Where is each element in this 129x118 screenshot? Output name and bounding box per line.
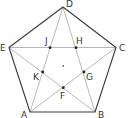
label-e: E: [0, 43, 6, 53]
intersection-points: [41, 46, 85, 89]
diagonal-ad: [30, 7, 63, 112]
label-d: D: [66, 0, 73, 9]
pentagon-diagram: A B C D E F G H J K: [0, 0, 129, 118]
label-a: A: [21, 110, 28, 118]
diagonal-ac: [30, 48, 116, 113]
point-f: [62, 86, 65, 89]
center-point: [63, 65, 65, 67]
label-h: H: [76, 36, 83, 46]
point-h: [75, 46, 78, 49]
label-f: F: [60, 91, 65, 101]
diagonal-bd: [63, 7, 95, 112]
point-k: [41, 71, 44, 74]
label-g: G: [86, 72, 93, 82]
diagonal-be: [9, 48, 95, 113]
label-b: B: [98, 110, 104, 118]
label-j: J: [44, 36, 48, 46]
point-g: [83, 71, 86, 74]
label-k: K: [33, 72, 40, 82]
label-c: C: [119, 43, 125, 53]
point-j: [49, 46, 52, 49]
